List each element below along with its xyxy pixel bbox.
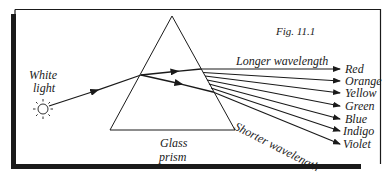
label-green: Green — [345, 100, 375, 112]
refracted-rays — [141, 69, 213, 92]
incident-ray — [49, 75, 141, 106]
ray-indigo — [211, 88, 340, 131]
prism-diagram — [0, 0, 389, 179]
ray-blue — [209, 84, 340, 119]
ray-yellow — [205, 76, 340, 93]
label-yellow: Yellow — [345, 87, 377, 99]
glass-prism-label-line2: prism — [159, 151, 186, 163]
ray-orange — [203, 73, 340, 82]
glass-prism-label-line1: Glass — [160, 137, 187, 149]
label-violet: Violet — [343, 138, 371, 150]
ray-violet — [213, 92, 340, 144]
longer-wavelength-label: Longer wavelength — [236, 55, 328, 67]
white-light-label-line1: White — [29, 69, 57, 81]
label-indigo: Indigo — [343, 125, 374, 137]
figure-frame — [11, 9, 381, 169]
sun-icon — [33, 99, 53, 119]
figure-title: Fig. 11.1 — [276, 25, 315, 37]
white-light-label-line2: light — [33, 82, 55, 94]
